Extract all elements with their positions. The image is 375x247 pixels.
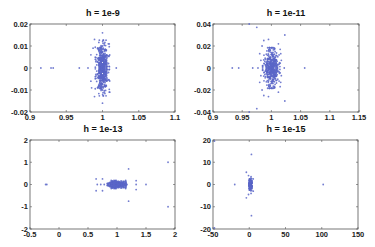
axes-2: 0.90.9511.051.11.15-0.04-0.0200.020.04 — [194, 20, 366, 123]
x-tick-label: 0.5 — [83, 230, 93, 239]
axes-4: -50050100150-20-1001020 — [200, 136, 364, 240]
y-tick-label: 0.02 — [13, 20, 28, 29]
y-tick-label: 0 — [24, 64, 28, 73]
x-tick-label: 1.05 — [293, 113, 308, 122]
x-tick-label: 0.95 — [59, 113, 74, 122]
axes-3: -0.500.511.52-2-1012 — [21, 136, 177, 240]
x-tick-label: 0 — [247, 230, 251, 239]
x-tick-label: 1 — [269, 113, 273, 122]
axes-frame — [213, 24, 359, 112]
y-tick-label: -20 — [200, 225, 211, 234]
y-tick-label: 0 — [24, 180, 28, 189]
x-tick-label: 0.95 — [235, 113, 250, 122]
x-tick-label: 1.05 — [131, 113, 146, 122]
y-tick-label: 1 — [24, 158, 28, 167]
y-tick-label: 0 — [207, 180, 211, 189]
x-tick-label: 1.1 — [170, 113, 180, 122]
scatter-figure: 0.90.9511.051.1-0.02-0.0100.010.020.90.9… — [0, 0, 375, 247]
x-tick-label: 1.1 — [325, 113, 335, 122]
x-tick-label: 50 — [281, 230, 289, 239]
y-tick-label: 20 — [203, 136, 211, 145]
y-tick-label: -0.04 — [194, 108, 212, 117]
x-tick-label: 1 — [100, 113, 104, 122]
y-tick-label: 2 — [24, 136, 28, 145]
x-tick-label: 150 — [352, 230, 365, 239]
y-tick-label: 0 — [207, 64, 211, 73]
y-tick-label: -0.01 — [11, 86, 28, 95]
y-tick-label: -10 — [200, 202, 211, 211]
y-tick-label: 0.01 — [13, 42, 28, 51]
x-tick-label: 2 — [173, 230, 177, 239]
x-tick-label: 100 — [315, 230, 328, 239]
y-tick-label: 10 — [203, 158, 211, 167]
x-tick-label: 1 — [115, 230, 119, 239]
y-tick-label: -1 — [21, 202, 28, 211]
y-tick-label: -0.02 — [194, 86, 211, 95]
y-tick-label: 0.04 — [196, 20, 211, 29]
axes-1: 0.90.9511.051.1-0.02-0.0100.010.02 — [11, 20, 180, 123]
axes-frame — [30, 140, 175, 229]
y-tick-label: -0.02 — [11, 108, 28, 117]
y-tick-label: -2 — [21, 225, 28, 234]
y-tick-label: 0.02 — [196, 42, 211, 51]
x-tick-label: 1.5 — [141, 230, 151, 239]
x-tick-label: 0 — [57, 230, 61, 239]
x-tick-label: 1.15 — [352, 113, 367, 122]
